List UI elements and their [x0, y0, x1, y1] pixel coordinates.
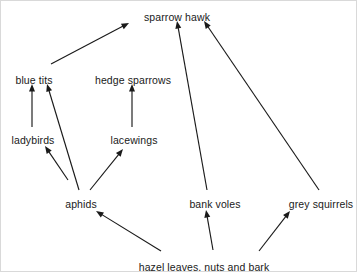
- food-web-diagram: sparrow hawkblue titshedge sparrowsladyb…: [0, 0, 357, 272]
- arrow-blue-tits-to-sparrow-hawk: [51, 23, 129, 64]
- arrow-hazel-to-bank-voles: [204, 210, 213, 250]
- node-label-bank-voles: bank voles: [189, 199, 240, 210]
- arrow-aphids-to-lacewings: [90, 149, 123, 190]
- node-label-sparrow-hawk: sparrow hawk: [144, 12, 210, 23]
- arrow-ladybirds-to-blue-tits: [29, 84, 35, 127]
- arrow-bank-voles-to-sparrow-hawk: [175, 21, 207, 190]
- node-label-hedge-sparrows: hedge sparrows: [95, 75, 171, 86]
- node-label-aphids: aphids: [65, 199, 97, 210]
- arrow-lacewings-to-hedge-sparrows: [129, 84, 135, 127]
- node-label-grey-squirrels: grey squirrels: [289, 199, 353, 210]
- arrow-aphids-to-ladybirds: [45, 146, 68, 180]
- node-label-ladybirds: ladybirds: [12, 135, 55, 146]
- node-label-hazel: hazel leaves, nuts and bark: [139, 262, 270, 272]
- arrow-hazel-to-aphids: [96, 211, 161, 251]
- arrow-hazel-to-grey-squirrels: [259, 211, 290, 251]
- node-label-lacewings: lacewings: [110, 135, 157, 146]
- arrow-grey-squirrels-to-sparrow-hawk: [204, 21, 319, 190]
- node-label-blue-tits: blue tits: [15, 75, 52, 86]
